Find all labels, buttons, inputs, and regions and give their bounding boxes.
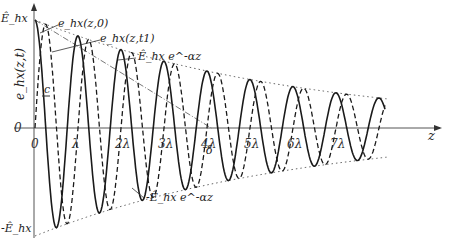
envelope-upper (35, 20, 388, 99)
x-axis-label: z (427, 128, 435, 143)
x-tick-label: 5λ (244, 137, 259, 151)
annotation-upper-envelope-pointer (118, 58, 136, 60)
y-axis-label: e_hx(z,t) (13, 48, 27, 100)
amplitude-top-label: Ê_hx (0, 11, 29, 25)
annotation-upper-envelope: Ê_hx e^-αz (137, 49, 201, 63)
x-tick-label: 2λ (114, 137, 130, 151)
y-axis-arrow (31, 3, 37, 11)
annotation-lower-envelope: -Ê_hx e^-αz (146, 190, 213, 204)
annotation-ehx-z0: e_hx(z,0) (58, 17, 108, 30)
annotation-velocity-c: c (44, 83, 50, 96)
x-tick-label: 3λ (158, 137, 173, 151)
annotation-skin-depth: δ (206, 144, 213, 157)
x-axis-arrow (434, 125, 442, 131)
annotation-ehx-zt1: e_hx(z,t1) (100, 32, 155, 45)
chart: 0λ2λ3λ4λ5λ6λ7λ z e_hx(z,t) 0 Ê_hx -Ê_hx … (0, 0, 451, 245)
y-zero-label: 0 (14, 121, 22, 135)
x-tick-label: λ (71, 137, 80, 151)
x-tick-label: 6λ (287, 137, 302, 151)
x-tick-label: 7λ (330, 137, 345, 151)
x-tick-label: 0 (31, 137, 39, 151)
amplitude-bottom-label: -Ê_hx (1, 221, 32, 235)
annotation-ehx-z0-pointer (40, 25, 58, 33)
